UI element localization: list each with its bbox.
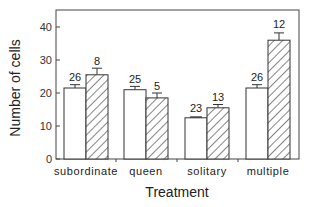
x-category-label: subordinate	[54, 165, 118, 177]
sample-size-label: 13	[212, 91, 224, 103]
sample-size-label: 26	[69, 71, 81, 83]
bar-open	[246, 88, 268, 159]
sample-size-label: 5	[154, 80, 160, 92]
y-tick-label: 20	[40, 87, 52, 99]
sample-size-label: 25	[129, 73, 141, 85]
bar-open	[124, 90, 146, 159]
bar-hatched	[86, 75, 108, 159]
x-category-label: multiple	[247, 165, 290, 177]
x-axis-title: Treatment	[145, 184, 208, 200]
bar-hatched	[146, 98, 168, 159]
y-axis: 0 10 20 30 40	[40, 21, 60, 165]
sample-size-label: 26	[251, 71, 263, 83]
sample-size-label: 23	[190, 102, 202, 114]
bar-chart: 0 10 20 30 40 26 8 25 5 23 13	[0, 0, 315, 207]
y-tick-label: 40	[40, 21, 52, 33]
bar-open	[185, 118, 207, 159]
y-axis-title: Number of cells	[7, 39, 23, 136]
bar-group-multiple: 26 12	[246, 18, 290, 159]
bar-open	[64, 88, 86, 159]
y-tick-label: 10	[40, 120, 52, 132]
bar-hatched	[268, 40, 290, 159]
sample-size-label: 12	[273, 18, 285, 30]
x-category-label: solitary	[187, 165, 227, 177]
x-category-label: queen	[129, 165, 163, 177]
bar-group-solitary: 23 13	[185, 91, 229, 159]
bar-group-subordinate: 26 8	[64, 55, 108, 159]
y-tick-label: 0	[46, 153, 52, 165]
bar-group-queen: 25 5	[124, 73, 168, 159]
sample-size-label: 8	[94, 55, 100, 67]
bar-hatched	[207, 108, 229, 159]
y-tick-label: 30	[40, 54, 52, 66]
